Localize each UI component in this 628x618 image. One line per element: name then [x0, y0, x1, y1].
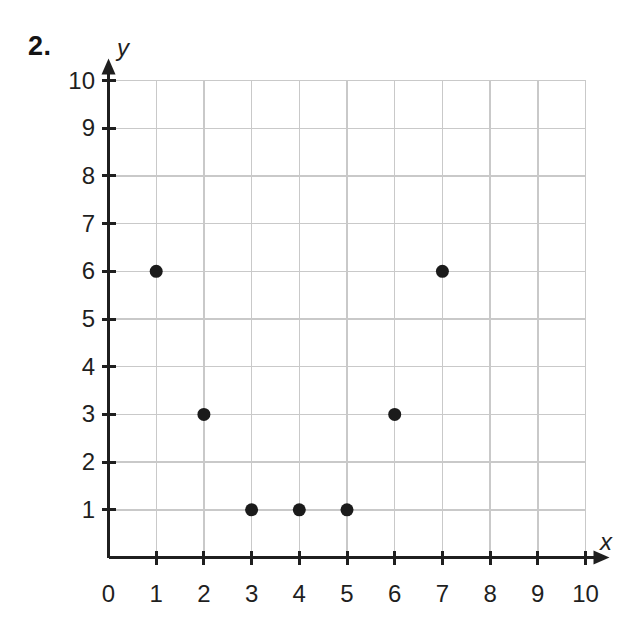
x-tick-label: 4 — [293, 582, 306, 606]
scatter-plot-figure: 2. 12345678910 012345678910 y x — [0, 0, 628, 618]
y-tick-label: 1 — [40, 498, 95, 522]
x-tick-label: 2 — [197, 582, 210, 606]
data-point — [150, 265, 163, 278]
x-tick-label: 8 — [483, 582, 496, 606]
y-tick-label: 7 — [40, 212, 95, 236]
x-tick-label: 9 — [531, 582, 544, 606]
y-tick-label: 6 — [40, 259, 95, 283]
x-tick-label: 0 — [102, 582, 115, 606]
y-tick-label: 10 — [40, 69, 95, 93]
x-axis-label: x — [600, 530, 612, 554]
y-tick-label: 5 — [40, 307, 95, 331]
y-tick-label: 4 — [40, 355, 95, 379]
x-tick-label: 3 — [245, 582, 258, 606]
x-tick-label: 7 — [436, 582, 449, 606]
x-tick-label: 10 — [572, 582, 599, 606]
axis-tick-marks — [102, 81, 586, 565]
gridlines — [109, 81, 586, 558]
data-point — [388, 408, 401, 421]
y-axis-label: y — [117, 36, 129, 60]
data-point — [436, 265, 449, 278]
x-tick-label: 1 — [150, 582, 163, 606]
x-tick-label: 5 — [340, 582, 353, 606]
y-tick-label: 8 — [40, 164, 95, 188]
plot-area: 12345678910 012345678910 y x — [0, 0, 628, 618]
y-axis-arrowhead — [102, 59, 116, 75]
y-tick-label: 9 — [40, 116, 95, 140]
y-tick-label: 3 — [40, 402, 95, 426]
x-tick-label: 6 — [388, 582, 401, 606]
axis-lines — [102, 59, 610, 565]
data-point — [245, 503, 258, 516]
data-point — [341, 503, 354, 516]
y-tick-label: 2 — [40, 450, 95, 474]
data-point — [293, 503, 306, 516]
data-point — [197, 408, 210, 421]
